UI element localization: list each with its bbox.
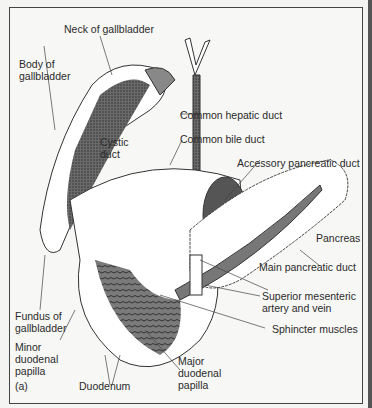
- label-neck-of-gallbladder: Neck of gallbladder: [64, 23, 154, 35]
- label-main-pancreatic-duct: Main pancreatic duct: [259, 261, 356, 273]
- label-accessory-pancreatic-duct: Accessory pancreatic duct: [237, 157, 360, 169]
- label-body-of-gallbladder: Body of gallbladder: [19, 58, 70, 82]
- label-superior-mesenteric: Superior mesenteric artery and vein: [262, 290, 356, 314]
- label-minor-duodenal-papilla: Minor duodenal papilla: [15, 341, 58, 377]
- label-common-hepatic-duct: Common hepatic duct: [180, 109, 282, 121]
- panel-label: (a): [15, 380, 28, 392]
- label-pancreas: Pancreas: [316, 232, 360, 244]
- label-duodenum: Duodenum: [79, 380, 130, 392]
- label-fundus-of-gallbladder: Fundus of gallbladder: [15, 310, 66, 334]
- label-common-bile-duct: Common bile duct: [180, 133, 265, 145]
- hepatic-duct: [185, 38, 210, 75]
- label-sphincter-muscles: Sphincter muscles: [272, 323, 358, 335]
- label-cystic-duct: Cystic duct: [100, 136, 129, 160]
- label-major-duodenal-papilla: Major duodenal papilla: [178, 355, 221, 391]
